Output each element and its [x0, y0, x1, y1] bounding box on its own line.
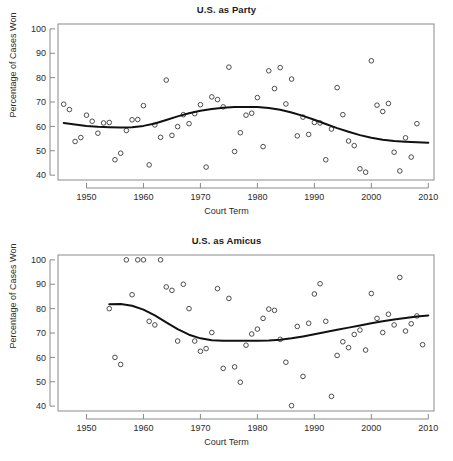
data-point — [266, 69, 271, 74]
data-point — [323, 157, 328, 162]
data-point — [153, 323, 158, 328]
data-point — [113, 355, 118, 360]
data-point — [198, 102, 203, 107]
data-point — [403, 329, 408, 334]
x-tick-label: 1960 — [133, 423, 153, 433]
data-point — [210, 95, 215, 100]
data-point — [255, 327, 260, 332]
data-point — [107, 120, 112, 125]
plot-area-party: 4050607080901001950196019701980199020002… — [0, 0, 453, 230]
y-tick-label: 90 — [36, 279, 46, 289]
figure-two-panel-scatter: U.S. as Party 40506070809010019501960197… — [0, 0, 453, 461]
data-point — [352, 143, 357, 148]
x-tick-label: 2000 — [361, 192, 381, 202]
data-point — [135, 117, 140, 122]
data-point — [380, 109, 385, 114]
data-point — [335, 85, 340, 90]
data-point — [107, 306, 112, 311]
data-point — [261, 316, 266, 321]
x-tick-label: 1970 — [190, 423, 210, 433]
data-point — [147, 319, 152, 324]
data-point — [175, 339, 180, 344]
y-axis-title-party: Percentage of Cases Won — [8, 0, 18, 145]
data-point — [295, 324, 300, 329]
x-tick-label: 1960 — [133, 192, 153, 202]
data-point — [84, 113, 89, 118]
y-tick-label: 60 — [36, 353, 46, 363]
data-point — [164, 285, 169, 290]
data-point — [409, 321, 414, 326]
data-point — [386, 312, 391, 317]
x-axis: 1950196019701980199020002010 — [76, 414, 438, 433]
x-tick-label: 1990 — [304, 192, 324, 202]
data-point — [420, 342, 425, 347]
y-tick-label: 50 — [36, 146, 46, 156]
panel-us-as-party: U.S. as Party 40506070809010019501960197… — [0, 0, 453, 230]
data-point — [301, 374, 306, 379]
data-point — [141, 258, 146, 263]
x-tick-label: 1980 — [247, 423, 267, 433]
y-tick-label: 100 — [31, 255, 46, 265]
data-point — [130, 117, 135, 122]
data-point — [278, 65, 283, 70]
data-point — [358, 328, 363, 333]
data-point — [96, 131, 101, 136]
data-point — [170, 288, 175, 293]
data-point — [289, 403, 294, 408]
data-point — [346, 139, 351, 144]
data-point — [284, 102, 289, 107]
data-point — [124, 258, 129, 263]
data-point — [204, 346, 209, 351]
y-axis: 405060708090100 — [31, 255, 55, 411]
data-point — [341, 112, 346, 117]
data-point — [204, 165, 209, 170]
x-tick-label: 1950 — [76, 423, 96, 433]
data-point — [232, 365, 237, 370]
x-tick-label: 1970 — [190, 192, 210, 202]
data-point — [244, 343, 249, 348]
data-point — [192, 339, 197, 344]
data-point — [398, 169, 403, 174]
x-tick-label: 2010 — [418, 423, 438, 433]
y-tick-label: 70 — [36, 97, 46, 107]
data-point — [380, 330, 385, 335]
x-axis-title-party: Court Term — [0, 206, 453, 216]
data-point — [375, 103, 380, 108]
data-point — [118, 362, 123, 367]
data-point — [181, 282, 186, 287]
data-point — [215, 286, 220, 291]
data-point — [272, 308, 277, 313]
data-point — [130, 292, 135, 297]
data-point — [90, 119, 95, 124]
data-point — [113, 157, 118, 162]
data-point — [295, 134, 300, 139]
x-tick-label: 1980 — [247, 192, 267, 202]
data-point — [73, 139, 78, 144]
x-tick-label: 1950 — [76, 192, 96, 202]
data-point — [341, 339, 346, 344]
panel-us-as-amicus: U.S. as Amicus 4050607080901001950196019… — [0, 231, 453, 461]
y-axis: 405060708090100 — [31, 24, 55, 180]
data-point — [323, 319, 328, 324]
y-tick-label: 80 — [36, 73, 46, 83]
data-point — [392, 323, 397, 328]
data-point — [249, 332, 254, 337]
data-point — [335, 353, 340, 358]
y-tick-label: 60 — [36, 122, 46, 132]
trend-line — [64, 107, 429, 143]
data-point — [232, 149, 237, 154]
data-point — [358, 166, 363, 171]
data-point — [306, 321, 311, 326]
data-point — [306, 132, 311, 137]
data-point — [238, 380, 243, 385]
data-point — [363, 170, 368, 175]
scatter-series — [107, 258, 425, 408]
data-point — [369, 59, 374, 64]
data-point — [375, 316, 380, 321]
data-point — [175, 124, 180, 129]
data-point — [312, 292, 317, 297]
x-tick-label: 2000 — [361, 423, 381, 433]
data-point — [141, 103, 146, 108]
data-point — [187, 121, 192, 126]
data-point — [244, 113, 249, 118]
